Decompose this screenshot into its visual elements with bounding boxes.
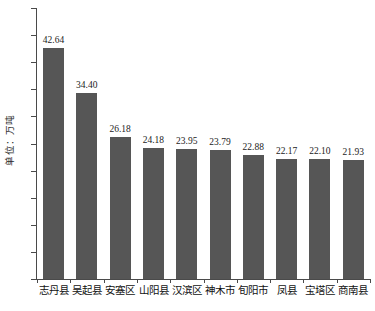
bar[interactable] [143,148,164,279]
bar[interactable] [309,159,330,279]
bar[interactable] [43,48,64,279]
y-tick-mark [31,8,36,9]
bar[interactable] [110,137,131,279]
bar-chart: 单位：万吨 05101520253035404550 42.6434.4026.… [0,0,375,311]
bar[interactable] [76,93,97,279]
y-axis-title: 单位：万吨 [0,0,18,279]
bar-group[interactable]: 22.10 [303,8,336,279]
y-tick-mark [31,279,36,280]
bar-group[interactable]: 22.17 [270,8,303,279]
y-tick-mark [31,171,36,172]
bar[interactable] [343,160,364,279]
bar[interactable] [276,159,297,279]
bar-group[interactable]: 22.88 [237,8,270,279]
y-tick-mark [31,89,36,90]
y-axis-title-label: 单位：万吨 [2,114,16,166]
y-tick-mark [31,144,36,145]
bar-value-label: 42.64 [34,34,73,46]
bar-group[interactable]: 23.79 [204,8,237,279]
y-tick-mark [31,252,36,253]
bar[interactable] [210,150,231,279]
y-tick-mark [31,62,36,63]
bar-group[interactable]: 42.64 [37,8,70,279]
bar[interactable] [176,149,197,279]
y-tick-mark [31,116,36,117]
bar-value-label: 34.40 [67,79,106,91]
bar-group[interactable]: 24.18 [137,8,170,279]
bar-group[interactable]: 26.18 [104,8,137,279]
bar-group[interactable]: 21.93 [337,8,370,279]
y-tick-mark [31,225,36,226]
bar-group[interactable]: 34.40 [70,8,103,279]
y-tick-mark [31,198,36,199]
bar-group[interactable]: 23.95 [170,8,203,279]
plot-area: 42.6434.4026.1824.1823.9523.7922.8822.17… [37,8,370,279]
bar[interactable] [243,155,264,279]
bar-value-label: 21.93 [334,146,373,158]
x-axis-label: 商南县 [333,283,373,298]
